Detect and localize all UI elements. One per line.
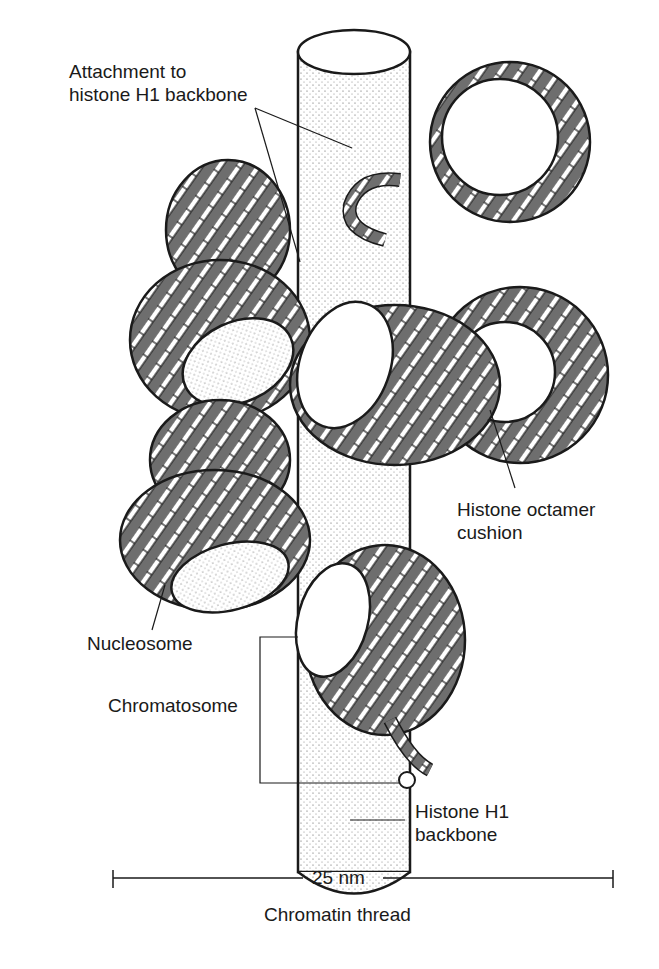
label-histone-octamer: Histone octamer cushion <box>457 498 595 544</box>
scale-label: 25 nm <box>312 866 365 889</box>
label-chromatosome: Chromatosome <box>108 694 238 717</box>
figure-title: Chromatin thread <box>264 903 411 926</box>
label-attachment-line2: histone H1 backbone <box>69 83 248 106</box>
label-nucleosome: Nucleosome <box>87 632 193 655</box>
label-attachment: Attachment to histone H1 backbone <box>69 60 248 106</box>
nucleosome-upper-left <box>130 160 310 423</box>
label-backbone-line2: backbone <box>415 823 509 846</box>
nucleosome-lower-left <box>120 400 310 624</box>
label-backbone-line1: Histone H1 <box>415 800 509 823</box>
nucleosome-middle-right <box>280 287 608 465</box>
chromatin-diagram <box>0 0 659 969</box>
label-octamer-line1: Histone octamer <box>457 498 595 521</box>
label-attachment-line1: Attachment to <box>69 60 248 83</box>
label-histone-h1-backbone: Histone H1 backbone <box>415 800 509 846</box>
label-octamer-line2: cushion <box>457 521 595 544</box>
